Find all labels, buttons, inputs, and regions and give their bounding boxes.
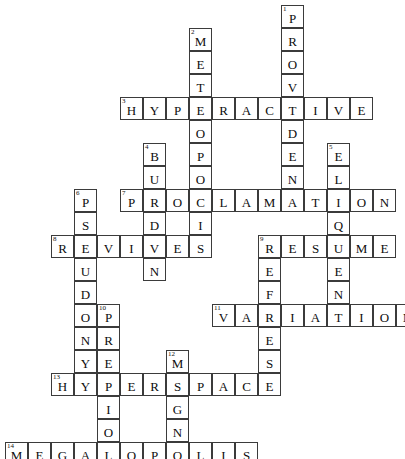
crossword-cell[interactable]: E — [74, 235, 97, 258]
crossword-cell[interactable]: N — [281, 166, 304, 189]
crossword-cell[interactable]: S — [235, 442, 258, 459]
crossword-cell[interactable]: O — [74, 304, 97, 327]
crossword-cell[interactable]: Y — [74, 373, 97, 396]
crossword-cell[interactable]: A — [281, 189, 304, 212]
crossword-cell[interactable]: G — [51, 442, 74, 459]
crossword-cell[interactable]: S — [166, 373, 189, 396]
crossword-cell[interactable]: N — [396, 304, 405, 327]
crossword-cell[interactable]: P — [97, 373, 120, 396]
crossword-cell[interactable]: S — [74, 212, 97, 235]
crossword-cell[interactable]: A — [235, 97, 258, 120]
crossword-cell[interactable]: T — [281, 97, 304, 120]
crossword-cell[interactable]: A — [212, 373, 235, 396]
crossword-cell[interactable]: A — [74, 442, 97, 459]
crossword-cell[interactable]: L — [212, 189, 235, 212]
crossword-cell[interactable]: Q — [327, 212, 350, 235]
crossword-cell[interactable]: I — [304, 97, 327, 120]
crossword-cell[interactable]: 3H — [120, 97, 143, 120]
crossword-cell[interactable]: E — [258, 258, 281, 281]
crossword-cell[interactable]: P — [189, 143, 212, 166]
crossword-cell[interactable]: D — [281, 120, 304, 143]
crossword-cell[interactable]: 1P — [281, 5, 304, 28]
crossword-cell[interactable]: O — [373, 304, 396, 327]
crossword-cell[interactable]: R — [281, 28, 304, 51]
crossword-cell[interactable]: T — [327, 304, 350, 327]
crossword-cell[interactable]: L — [189, 442, 212, 459]
crossword-cell[interactable]: A — [304, 304, 327, 327]
crossword-cell[interactable]: E — [189, 97, 212, 120]
crossword-cell[interactable]: M — [350, 235, 373, 258]
crossword-cell[interactable]: V — [97, 235, 120, 258]
crossword-cell[interactable]: C — [189, 189, 212, 212]
crossword-cell[interactable]: O — [120, 442, 143, 459]
crossword-cell[interactable]: S — [189, 235, 212, 258]
crossword-cell[interactable]: 9R — [258, 235, 281, 258]
crossword-cell[interactable]: E — [258, 373, 281, 396]
crossword-cell[interactable]: 11V — [212, 304, 235, 327]
crossword-cell[interactable]: R — [143, 373, 166, 396]
crossword-cell[interactable]: T — [189, 74, 212, 97]
crossword-cell[interactable]: N — [74, 327, 97, 350]
crossword-cell[interactable]: O — [281, 51, 304, 74]
crossword-cell[interactable]: E — [120, 373, 143, 396]
crossword-cell[interactable]: 4B — [143, 143, 166, 166]
crossword-cell[interactable]: I — [281, 304, 304, 327]
crossword-cell[interactable]: D — [74, 281, 97, 304]
crossword-cell[interactable]: 7P — [120, 189, 143, 212]
crossword-cell[interactable]: U — [143, 166, 166, 189]
crossword-cell[interactable]: T — [304, 189, 327, 212]
crossword-cell[interactable]: S — [258, 350, 281, 373]
crossword-cell[interactable]: P — [166, 97, 189, 120]
crossword-cell[interactable]: R — [143, 189, 166, 212]
crossword-cell[interactable]: D — [143, 212, 166, 235]
crossword-cell[interactable]: Y — [143, 97, 166, 120]
crossword-cell[interactable]: E — [189, 51, 212, 74]
crossword-cell[interactable]: E — [258, 327, 281, 350]
crossword-cell[interactable]: E — [281, 235, 304, 258]
crossword-cell[interactable]: 6P — [74, 189, 97, 212]
crossword-cell[interactable]: U — [327, 235, 350, 258]
crossword-cell[interactable]: E — [97, 350, 120, 373]
crossword-cell[interactable]: N — [166, 419, 189, 442]
crossword-cell[interactable]: 5E — [327, 143, 350, 166]
crossword-cell[interactable]: O — [189, 120, 212, 143]
crossword-cell[interactable]: E — [350, 97, 373, 120]
crossword-cell[interactable]: V — [143, 235, 166, 258]
crossword-cell[interactable]: R — [97, 327, 120, 350]
crossword-cell[interactable]: 8R — [51, 235, 74, 258]
crossword-cell[interactable]: C — [235, 373, 258, 396]
crossword-cell[interactable]: V — [327, 97, 350, 120]
crossword-cell[interactable]: 13H — [51, 373, 74, 396]
crossword-cell[interactable]: N — [327, 281, 350, 304]
crossword-cell[interactable]: V — [281, 74, 304, 97]
crossword-cell[interactable]: I — [97, 396, 120, 419]
crossword-cell[interactable]: N — [373, 189, 396, 212]
crossword-cell[interactable]: E — [373, 235, 396, 258]
crossword-cell[interactable]: I — [350, 304, 373, 327]
crossword-cell[interactable]: 14M — [5, 442, 28, 459]
crossword-cell[interactable]: M — [258, 189, 281, 212]
crossword-cell[interactable]: F — [258, 281, 281, 304]
crossword-cell[interactable]: I — [120, 235, 143, 258]
crossword-cell[interactable]: P — [189, 373, 212, 396]
crossword-cell[interactable]: Y — [74, 350, 97, 373]
crossword-cell[interactable]: N — [143, 258, 166, 281]
crossword-cell[interactable]: L — [97, 442, 120, 459]
crossword-cell[interactable]: 12M — [166, 350, 189, 373]
crossword-cell[interactable]: R — [258, 304, 281, 327]
crossword-cell[interactable]: I — [327, 189, 350, 212]
crossword-cell[interactable]: O — [97, 419, 120, 442]
crossword-cell[interactable]: E — [166, 235, 189, 258]
crossword-cell[interactable]: O — [166, 189, 189, 212]
crossword-cell[interactable]: 2M — [189, 28, 212, 51]
crossword-cell[interactable]: A — [235, 304, 258, 327]
crossword-cell[interactable]: O — [189, 166, 212, 189]
crossword-cell[interactable]: L — [327, 166, 350, 189]
crossword-cell[interactable]: C — [258, 97, 281, 120]
crossword-cell[interactable]: G — [166, 396, 189, 419]
crossword-cell[interactable]: U — [74, 258, 97, 281]
crossword-cell[interactable]: A — [235, 189, 258, 212]
crossword-cell[interactable]: 10P — [97, 304, 120, 327]
crossword-cell[interactable]: E — [28, 442, 51, 459]
crossword-cell[interactable]: E — [281, 143, 304, 166]
